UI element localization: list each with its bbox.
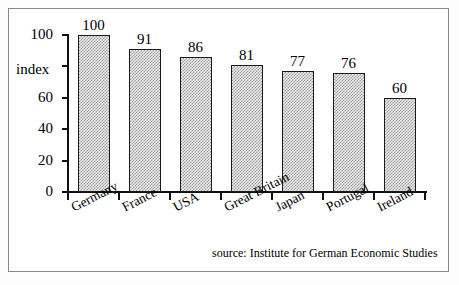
bar-value-label: 100 bbox=[82, 18, 105, 33]
plot-area: 100918681777660 bbox=[68, 35, 425, 192]
bar-value-label: 81 bbox=[239, 48, 254, 63]
y-axis-tick-label: 40 bbox=[0, 121, 53, 136]
bar-value-label: 86 bbox=[188, 40, 203, 55]
bar: 86 bbox=[180, 57, 212, 192]
bar: 100 bbox=[78, 35, 110, 192]
y-axis-tick-label: 60 bbox=[0, 90, 53, 105]
x-axis-tick bbox=[322, 193, 324, 200]
y-axis-tick-label: 0 bbox=[0, 184, 53, 199]
x-axis-tick bbox=[169, 193, 171, 200]
bar: 60 bbox=[384, 98, 416, 192]
x-axis-tick bbox=[373, 193, 375, 200]
bar-value-label: 77 bbox=[290, 54, 305, 69]
source-note: source: Institute for German Economic St… bbox=[212, 247, 438, 259]
x-axis-tick bbox=[118, 193, 120, 200]
bar: 91 bbox=[129, 49, 161, 192]
y-axis-tick-label: 20 bbox=[0, 152, 53, 167]
bar: 81 bbox=[231, 65, 263, 192]
x-axis-tick bbox=[220, 193, 222, 200]
bar-value-label: 91 bbox=[137, 32, 152, 47]
chart-figure: index 1006040200 100918681777660 Germany… bbox=[0, 0, 459, 285]
x-axis-tick bbox=[67, 193, 69, 200]
bar: 76 bbox=[333, 73, 365, 192]
x-axis-tick bbox=[271, 193, 273, 200]
bar-value-label: 60 bbox=[392, 81, 407, 96]
x-axis-tick bbox=[424, 193, 426, 200]
y-axis-title: index bbox=[16, 62, 49, 77]
y-axis-tick-label: 100 bbox=[0, 27, 53, 42]
bar-value-label: 76 bbox=[341, 56, 356, 71]
